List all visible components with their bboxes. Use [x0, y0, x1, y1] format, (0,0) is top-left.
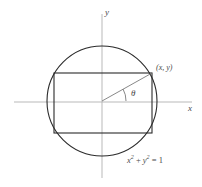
y-axis-label: y [105, 8, 109, 17]
point-coordinate-label: (x, y) [156, 64, 172, 72]
equation-equals-one: = 1 [150, 155, 163, 165]
theta-label: θ [131, 89, 135, 98]
figure-canvas [0, 0, 202, 187]
math-figure-unit-circle: y x (x, y) θ x2 + y2 = 1 [0, 0, 202, 187]
equation-plus: + [134, 155, 143, 165]
theta-angle-arc [123, 89, 126, 101]
radius-segment [102, 73, 152, 101]
inscribed-rectangle [54, 73, 152, 133]
circle-equation-label: x2 + y2 = 1 [127, 156, 163, 165]
x-axis-label: x [188, 104, 192, 113]
